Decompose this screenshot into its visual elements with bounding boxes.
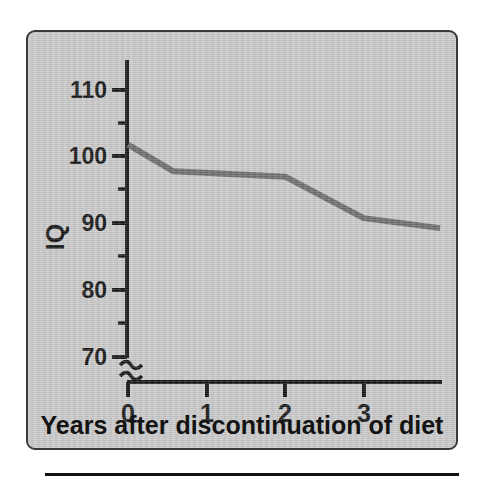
y-tick-label-90: 90: [81, 210, 107, 236]
axis-break-squiggle-lower: [120, 373, 142, 380]
x-axis-title-layer: Years after discontinuation of diet: [26, 404, 458, 448]
y-axis-title: IQ: [41, 224, 69, 250]
y-tick-label-70: 70: [81, 344, 107, 370]
y-tick-label-80: 80: [81, 277, 107, 303]
chart-panel: 110 100 90 80 70 0 1 2 3 IQ: [26, 30, 458, 450]
figure-bottom-rule: [45, 473, 459, 476]
x-axis-title: Years after discontinuation of diet: [41, 411, 445, 439]
y-tick-label-100: 100: [69, 143, 107, 169]
y-tick-label-110: 110: [70, 77, 107, 103]
figure-root: 110 100 90 80 70 0 1 2 3 IQ: [0, 0, 482, 483]
data-series-line: [128, 145, 440, 229]
line-chart-plot: 110 100 90 80 70 0 1 2 3 IQ: [28, 32, 456, 448]
axis-break-squiggle-upper: [120, 362, 142, 369]
